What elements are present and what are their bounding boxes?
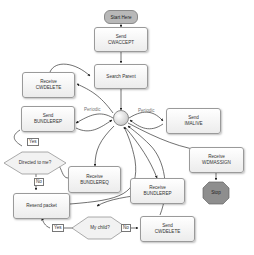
node-line: WDMASSIGN xyxy=(202,160,231,166)
no-tag-directed: No xyxy=(34,178,44,186)
node-line: BUNDLEREQ xyxy=(80,180,109,186)
node-line: IMALIVE xyxy=(184,121,202,127)
central-hub xyxy=(113,110,129,126)
decision-my-child-label: My child? xyxy=(80,225,120,230)
periodic-label-left: Periodic xyxy=(84,107,101,112)
node-receive-bundlerep: Receive BUNDLEREP xyxy=(130,178,185,204)
periodic-label-right: Periodic xyxy=(138,108,155,113)
node-receive-bundlereq: Receive BUNDLEREQ xyxy=(68,166,121,193)
node-line: BUNDLEREP xyxy=(34,119,62,125)
node-receive-cwdelete: Receive CWDELETE xyxy=(22,72,75,98)
node-line: CWACCEPT xyxy=(108,40,134,46)
stop-label: Stop xyxy=(203,190,229,195)
node-line: BUNDLEREP xyxy=(143,191,171,197)
node-send-imalive: Send IMALIVE xyxy=(166,108,221,134)
no-tag-child: No xyxy=(121,224,131,232)
start-label: Start Here xyxy=(111,15,132,20)
node-send-cwdelete: Send CWDELETE xyxy=(140,216,195,242)
node-receive-wdmassign: Receive WDMASSIGN xyxy=(189,147,244,173)
node-line: CWDELETE xyxy=(155,229,181,235)
node-line: Search Parent xyxy=(106,74,135,80)
node-search-parent: Search Parent xyxy=(94,64,148,89)
node-send-bundlerep: Send BUNDLEREP xyxy=(21,106,75,132)
yes-tag-child: Yes xyxy=(52,224,64,232)
node-line: Resend packet xyxy=(26,203,57,209)
start-node: Start Here xyxy=(104,10,138,24)
yes-tag-directed: Yes xyxy=(27,138,39,146)
node-send-cwaccept: Send CWACCEPT xyxy=(94,27,148,52)
node-resend-packet: Resend packet xyxy=(13,193,70,219)
decision-directed-label: Directed to me? xyxy=(12,160,58,165)
node-line: CWDELETE xyxy=(36,85,62,91)
